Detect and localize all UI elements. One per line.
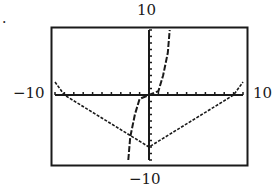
graph-window bbox=[0, 0, 272, 196]
